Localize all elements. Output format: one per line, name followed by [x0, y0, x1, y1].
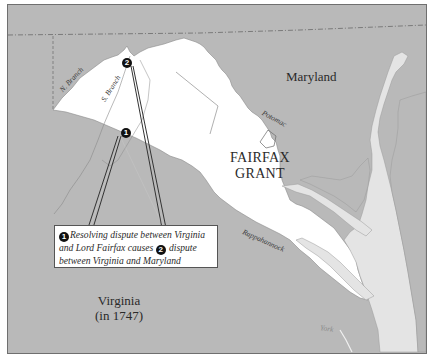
callout-line-1b	[93, 136, 121, 228]
fairfax-grant-label: FAIRFAX GRANT	[230, 150, 290, 182]
virginia-label-line1: Virginia	[95, 294, 143, 309]
virginia-label-line2: (in 1747)	[95, 309, 143, 324]
marker-1-icon: 1	[121, 128, 131, 138]
map-canvas	[0, 0, 433, 361]
marker-2-icon: 2	[122, 58, 132, 68]
fairfax-grant-label-line2: GRANT	[230, 166, 290, 182]
maryland-label: Maryland	[286, 70, 337, 85]
callout-marker-1-icon: 1	[59, 232, 69, 242]
york-river	[340, 330, 352, 352]
fairfax-grant-label-line1: FAIRFAX	[230, 150, 290, 166]
callout-box: 1Resolving dispute between Virginia and …	[54, 225, 218, 268]
callout-marker-2-icon: 2	[156, 245, 166, 255]
pennsylvania-border-line	[8, 25, 426, 35]
callout-line-1	[88, 136, 118, 228]
virginia-label: Virginia (in 1747)	[95, 294, 143, 324]
york-river-label: York	[319, 323, 334, 334]
